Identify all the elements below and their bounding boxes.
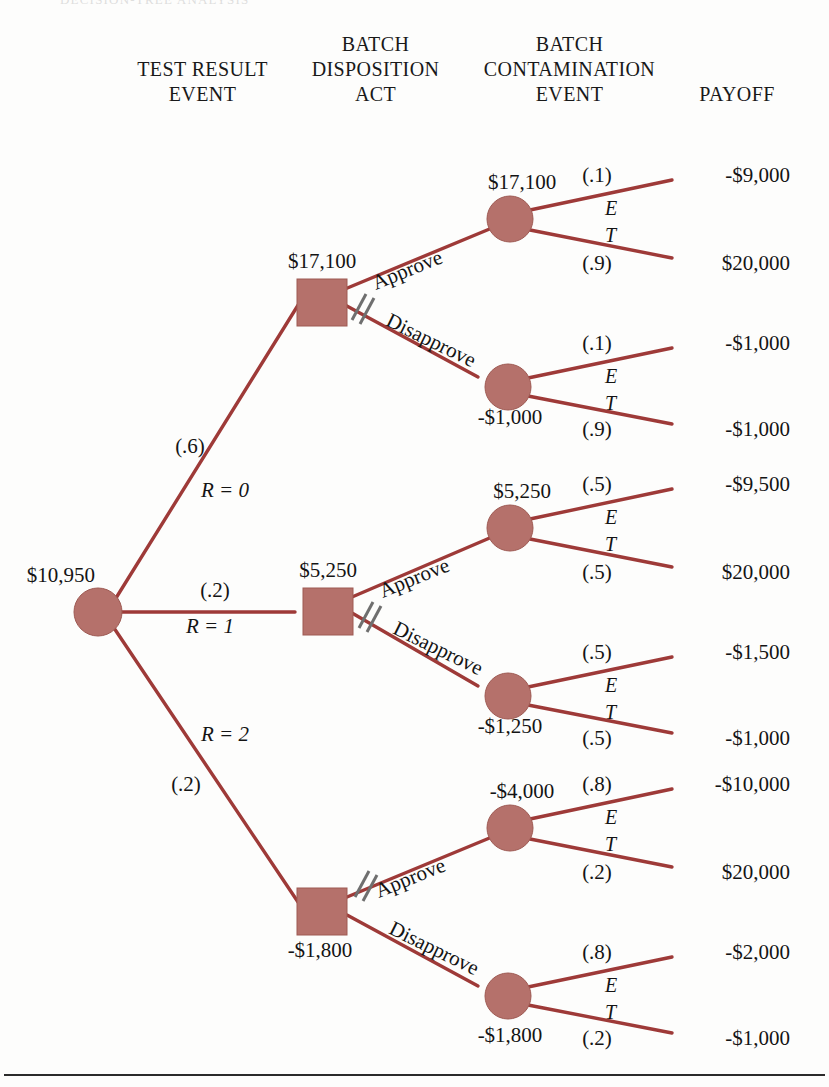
payoff-r0-d-e: -$1,000 — [725, 331, 790, 355]
state-letter-e-r0-a: E — [605, 197, 617, 220]
branch-event-r1: R = 1 — [186, 614, 234, 638]
chance-node-r0-disapprove — [485, 364, 531, 410]
branch-prob-r1: (.2) — [200, 578, 230, 602]
chance-value-r1-disapprove: -$1,250 — [478, 714, 543, 738]
decision-node-r0 — [297, 279, 347, 326]
branch-event-r0: R = 0 — [201, 478, 249, 502]
payoff-r2-d-e: -$2,000 — [725, 940, 790, 964]
outcome-prob-r1-d-t: (.5) — [582, 726, 612, 750]
payoff-r1-d-t: -$1,000 — [725, 726, 790, 750]
branch-prob-r0: (.6) — [175, 434, 205, 458]
chance-value-r2-approve: -$4,000 — [490, 779, 555, 803]
root-node-value: $10,950 — [27, 563, 95, 587]
chance-value-r0-approve: $17,100 — [488, 170, 556, 194]
outcome-prob-r0-d-e: (.1) — [582, 331, 612, 355]
state-letter-t-r1-d: T — [605, 701, 616, 724]
chance-node-r1-disapprove — [485, 673, 531, 719]
decision-node-r2 — [297, 888, 347, 935]
chance-node-r2-approve — [487, 805, 533, 851]
outcome-prob-r1-d-e: (.5) — [582, 640, 612, 664]
payoff-r0-a-e: -$9,000 — [725, 163, 790, 187]
state-letter-e-r0-d: E — [605, 365, 617, 388]
state-letter-t-r2-d: T — [605, 1001, 616, 1024]
payoff-r2-d-t: -$1,000 — [725, 1026, 790, 1050]
decision-nodes — [297, 279, 353, 935]
payoff-r1-a-t: $20,000 — [722, 560, 790, 584]
tree-graphics — [0, 0, 829, 1087]
pruned-branch-marks — [352, 294, 381, 901]
decision-value-r2: -$1,800 — [288, 938, 353, 962]
state-letter-t-r1-a: T — [605, 533, 616, 556]
outcome-prob-r2-a-t: (.2) — [582, 860, 612, 884]
state-letter-e-r2-a: E — [605, 806, 617, 829]
decision-node-r1 — [303, 588, 353, 635]
contamination-branch-lines — [528, 180, 672, 1033]
outcome-prob-r0-d-t: (.9) — [582, 417, 612, 441]
payoff-r2-a-e: -$10,000 — [715, 772, 790, 796]
state-letter-e-r1-a: E — [605, 506, 617, 529]
chance-value-r1-approve: $5,250 — [493, 479, 551, 503]
branch-prob-r2: (.2) — [171, 772, 201, 796]
outcome-prob-r1-a-e: (.5) — [582, 472, 612, 496]
payoff-r0-d-t: -$1,000 — [725, 417, 790, 441]
chance-node-r0-approve — [487, 196, 533, 242]
branch-line-r2 — [114, 628, 300, 905]
payoff-r2-a-t: $20,000 — [722, 860, 790, 884]
branch-line-r0 — [116, 302, 300, 598]
outcome-prob-r2-a-e: (.8) — [582, 772, 612, 796]
figure-bottom-rule — [4, 1074, 825, 1076]
decision-value-r0: $17,100 — [288, 249, 356, 273]
chance-node-root — [74, 588, 122, 636]
chance-value-r0-disapprove: -$1,000 — [478, 405, 543, 429]
payoff-r0-a-t: $20,000 — [722, 251, 790, 275]
decision-value-r1: $5,250 — [299, 558, 357, 582]
decision-tree-figure: DECISION-TREE ANALYSIS TEST RESULT EVENT… — [0, 0, 829, 1087]
outcome-prob-r0-a-e: (.1) — [582, 163, 612, 187]
payoff-r1-a-e: -$9,500 — [725, 472, 790, 496]
state-letter-t-r0-a: T — [605, 224, 616, 247]
chance-node-r1-approve — [487, 505, 533, 551]
outcome-prob-r2-d-e: (.8) — [582, 940, 612, 964]
outcome-prob-r0-a-t: (.9) — [582, 251, 612, 275]
state-letter-t-r0-d: T — [605, 392, 616, 415]
state-letter-t-r2-a: T — [605, 833, 616, 856]
outcome-prob-r2-d-t: (.2) — [582, 1026, 612, 1050]
payoff-r1-d-e: -$1,500 — [725, 640, 790, 664]
state-letter-e-r2-d: E — [605, 974, 617, 997]
outcome-prob-r1-a-t: (.5) — [582, 560, 612, 584]
state-letter-e-r1-d: E — [605, 674, 617, 697]
chance-node-r2-disapprove — [485, 973, 531, 1019]
chance-value-r2-disapprove: -$1,800 — [478, 1023, 543, 1047]
branch-event-r2: R = 2 — [201, 722, 249, 746]
test-result-branch-lines — [114, 302, 300, 905]
